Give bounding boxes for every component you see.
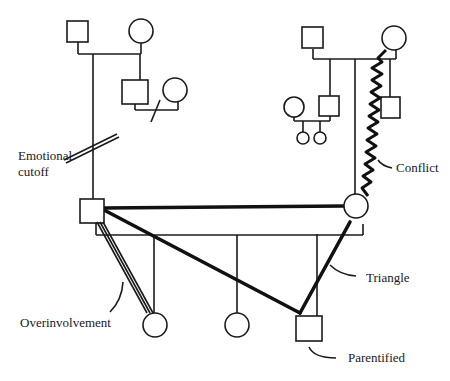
maternal-uncle-wife-circle — [284, 97, 304, 117]
paternal-family — [67, 19, 187, 200]
cousin-2-circle — [314, 132, 326, 144]
eldest-daughter-circle — [143, 313, 167, 337]
parentified-leader-line — [309, 347, 336, 358]
middle-daughter-circle — [225, 313, 249, 337]
maternal-uncle-square — [319, 96, 339, 116]
conflict-zigzag — [362, 50, 386, 196]
triangle-leader-line — [330, 265, 356, 276]
uncle-ex-wife-circle — [163, 78, 187, 102]
maternal-family — [284, 26, 406, 199]
parentified-son-square — [296, 316, 322, 341]
emotional-cutoff-label-line2: cutoff — [18, 164, 49, 179]
paternal-grandmother-circle — [129, 19, 153, 43]
maternal-grandmother-circle — [382, 26, 406, 50]
paternal-grandfather-square — [67, 21, 88, 42]
maternal-youngest-son-square — [381, 97, 400, 118]
uncle-square — [122, 80, 148, 104]
overinvolvement-leader-line — [110, 282, 123, 312]
overinvolvement-label: Overinvolvement — [20, 315, 111, 330]
conflict-label: Conflict — [396, 160, 439, 175]
triangle-label: Triangle — [366, 270, 410, 285]
mother-circle — [344, 194, 368, 218]
parentified-label: Parentified — [348, 350, 406, 365]
divorce-slash — [151, 100, 160, 122]
triangle-edge-parents — [104, 206, 344, 208]
emotional-cutoff-label-line1: Emotional — [18, 148, 73, 163]
conflict-leader-line — [378, 160, 392, 168]
emotional-cutoff-marker — [64, 134, 119, 163]
father-square — [80, 199, 104, 223]
cousin-1-circle — [297, 132, 309, 144]
maternal-grandfather-square — [302, 27, 323, 48]
genogram-diagram: Emotional cutoff Conflict — [0, 0, 450, 381]
triangle-edge-father-son — [104, 210, 300, 313]
